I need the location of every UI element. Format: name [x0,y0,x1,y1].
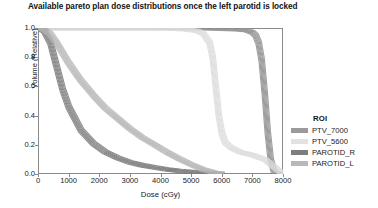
x-tick-mark [69,174,70,177]
x-axis-tick-labels: 010002000300040005000600070008000 [0,176,378,188]
plot-area [38,28,283,174]
y-tick-label: 0.2 [5,141,35,149]
x-tick-mark [38,174,39,177]
chart-title: Available pareto plan dose distributions… [28,2,358,11]
legend-swatch-icon [291,150,308,155]
y-tick-mark [35,145,38,146]
x-axis-label: Dose (cGy) [38,190,283,199]
y-tick-mark [35,116,38,117]
legend-title: ROI [313,114,378,123]
x-tick-mark [161,174,162,177]
x-tick-mark [130,174,131,177]
legend: ROI PTV_7000PTV_5600PAROTID_RPAROTID_L [291,114,378,169]
legend-items: PTV_7000PTV_5600PAROTID_RPAROTID_L [291,125,378,169]
legend-item-parotid_r[interactable]: PAROTID_R [291,147,378,158]
legend-swatch-icon [291,139,308,144]
x-tick-mark [222,174,223,177]
y-tick-mark [35,57,38,58]
x-tick-mark [252,174,253,177]
legend-item-label: PTV_5600 [312,137,348,146]
plot-curves [38,28,283,174]
x-tick-mark [99,174,100,177]
legend-item-label: PAROTID_R [312,148,355,157]
y-tick-mark [35,28,38,29]
series-parotid_r [38,28,225,174]
legend-item-label: PAROTID_L [312,159,354,168]
legend-item-label: PTV_7000 [312,126,348,135]
legend-item-ptv_7000[interactable]: PTV_7000 [291,125,378,136]
dvh-chart: Available pareto plan dose distributions… [0,0,378,208]
legend-item-ptv_5600[interactable]: PTV_5600 [291,136,378,147]
y-tick-mark [35,86,38,87]
x-tick-label: 8000 [263,176,303,185]
legend-item-parotid_l[interactable]: PAROTID_L [291,158,378,169]
x-tick-mark [283,174,284,177]
x-tick-mark [191,174,192,177]
legend-swatch-icon [291,161,308,166]
legend-swatch-icon [291,128,308,133]
